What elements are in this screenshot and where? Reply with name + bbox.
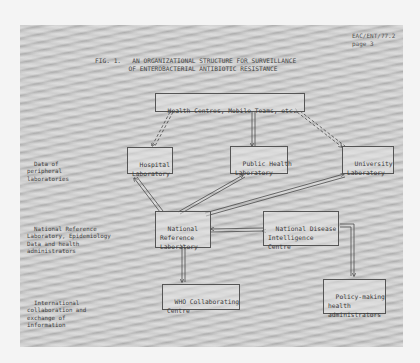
node-label: Policy-making health administrators [328, 293, 385, 318]
edge-disease-policy [340, 224, 354, 276]
node-policy-making-administrators: Policy-making health administrators [323, 279, 386, 314]
side-label-text: Data of peripheral laboratories [27, 161, 69, 182]
edge-health-university [297, 111, 345, 147]
node-public-health-laboratory: Public Health Laboratory [230, 146, 288, 174]
node-university-laboratory: University Laboratory [342, 146, 394, 174]
edge-health-public [252, 112, 255, 146]
side-label-text: National Reference Laboratory, Epidemiol… [27, 226, 111, 255]
node-label: Hospital Laboratory [132, 161, 170, 177]
edge-health-hospital [152, 112, 173, 146]
side-label-peripheral: Data of peripheral laboratories [27, 153, 69, 183]
node-who-collaborating-centre: WHO Collaborating Centre [162, 284, 240, 310]
edge-ref-university [205, 174, 345, 216]
node-label: University Laboratory [347, 160, 393, 176]
node-national-reference-laboratory: National Reference Laboratory [155, 211, 211, 248]
side-label-national: National Reference Laboratory, Epidemiol… [27, 218, 111, 256]
node-health-centres: Health Centres, Mobile Teams, etc. [155, 93, 305, 112]
node-national-disease-intelligence-centre: National Disease Intelligence Centre [263, 211, 339, 246]
side-label-text: International collaboration and exchange… [27, 300, 86, 329]
edge-disease-ref [211, 228, 263, 232]
edge-ref-hospital [134, 177, 163, 212]
node-label: Public Health Laboratory [235, 160, 292, 176]
node-label: Health Centres, Mobile Teams, etc. [168, 107, 297, 114]
edge-ref-who [182, 247, 185, 282]
side-label-international: International collaboration and exchange… [27, 292, 86, 330]
node-hospital-laboratory: Hospital Laboratory [127, 147, 173, 174]
node-label: National Reference Laboratory [160, 225, 198, 250]
